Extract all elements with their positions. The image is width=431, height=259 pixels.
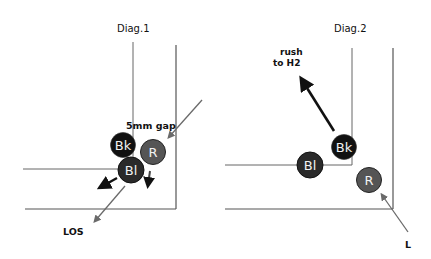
rush-label-line2: to H2 [273,58,300,68]
rush-arrow [302,80,334,131]
svg-text:Bk: Bk [336,140,353,155]
incoming-arrow [382,195,408,232]
ball-r: R [357,168,382,193]
diagram-2: Diag.2 rush to H2 Bk Bl R L [225,23,411,250]
r-down-arrow [148,171,150,185]
svg-text:R: R [148,145,157,160]
diagram-1-title: Diag.1 [117,23,150,34]
svg-text:Bl: Bl [125,163,138,178]
diagram-2-title: Diag.2 [334,23,367,34]
gap-annotation: 5mm gap [126,120,176,131]
ball-bl: Bl [118,157,144,183]
ball-r: R [141,140,166,165]
incoming-arrow [169,100,202,137]
diagram-canvas: Diag.1 5mm gap Bk R Bl LOS Diag.2 [0,0,431,259]
svg-text:Bl: Bl [304,158,317,173]
los-arrow [95,186,125,221]
los-label-partial: L [405,239,411,250]
rush-label-line1: rush [280,47,303,57]
ball-bk: Bk [332,135,357,160]
svg-text:Bk: Bk [115,138,132,153]
los-label: LOS [63,226,84,237]
diagram-1: Diag.1 5mm gap Bk R Bl LOS [23,23,202,237]
bl-deflect-arrow [101,178,117,187]
ball-bk: Bk [111,133,136,158]
ball-bl: Bl [297,152,323,178]
svg-text:R: R [364,173,373,188]
